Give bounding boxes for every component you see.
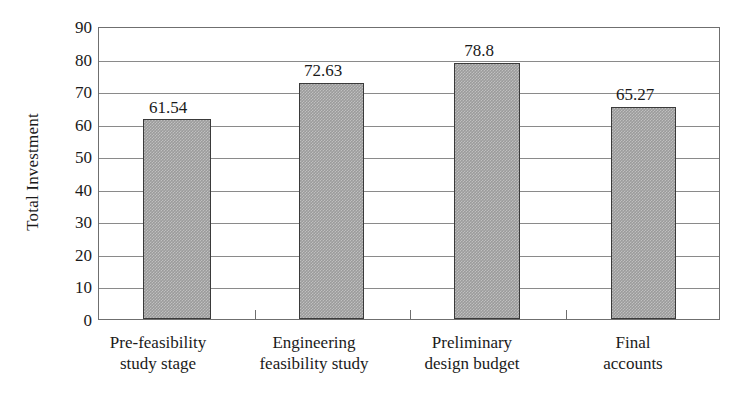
x-axis-tick <box>255 310 256 319</box>
x-axis-label-engineering-feasibility-study: Engineering feasibility study <box>246 332 382 374</box>
y-tick-label: 50 <box>48 149 92 166</box>
bar-value-label: 65.27 <box>575 86 695 103</box>
y-axis-tick-labels: 90 80 70 60 50 40 30 20 10 0 <box>48 0 92 405</box>
bar-final-accounts <box>611 107 676 320</box>
bar-value-label: 72.63 <box>263 62 383 79</box>
y-tick-label: 20 <box>48 246 92 263</box>
bar-value-label: 78.8 <box>419 42 539 59</box>
y-tick-label: 0 <box>48 312 92 329</box>
y-tick-label: 90 <box>48 19 92 36</box>
plot-area <box>98 27 720 320</box>
x-axis-label-line2: study stage <box>96 353 220 374</box>
x-axis-label-line1: Preliminary <box>406 332 538 353</box>
x-axis-tick <box>410 310 411 319</box>
bar-engineering-feasibility-study <box>299 83 364 319</box>
x-axis-tick <box>566 310 567 319</box>
x-axis-label-line1: Final <box>573 332 693 353</box>
y-tick-label: 70 <box>48 84 92 101</box>
y-tick-label: 30 <box>48 214 92 231</box>
bar-chart: Total Investment 90 80 70 60 50 40 30 20… <box>0 0 756 405</box>
gridline-80 <box>99 61 719 62</box>
x-axis-label-line1: Engineering <box>246 332 382 353</box>
x-axis-label-pre-feasibility-study-stage: Pre-feasibility study stage <box>96 332 220 374</box>
y-tick-label: 40 <box>48 181 92 198</box>
x-axis-label-final-accounts: Final accounts <box>573 332 693 374</box>
bar-value-label: 61.54 <box>108 99 228 116</box>
x-axis-label-line2: feasibility study <box>246 353 382 374</box>
x-axis-label-line2: design budget <box>406 353 538 374</box>
y-tick-label: 80 <box>48 51 92 68</box>
x-axis-label-line2: accounts <box>573 353 693 374</box>
bar-preliminary-design-budget <box>454 63 520 320</box>
y-tick-label: 10 <box>48 279 92 296</box>
y-axis-title: Total Investment <box>18 22 48 322</box>
x-axis-label-preliminary-design-budget: Preliminary design budget <box>406 332 538 374</box>
y-tick-label: 60 <box>48 116 92 133</box>
x-axis-label-line1: Pre-feasibility <box>96 332 220 353</box>
bar-pre-feasibility-study-stage <box>143 119 211 319</box>
